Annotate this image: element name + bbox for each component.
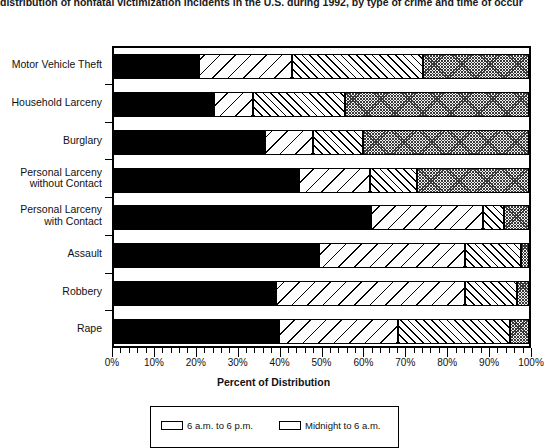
x-axis-major-tick	[531, 348, 532, 357]
x-axis-minor-tick	[229, 348, 230, 353]
x-axis-tick-label: 30%	[218, 357, 258, 368]
x-axis-tick-label: 70%	[385, 357, 425, 368]
y-axis-labels: Motor Vehicle TheftHousehold LarcenyBurg…	[0, 46, 108, 348]
y-axis-label: Robbery	[0, 286, 108, 298]
bar-segment-dense-forwardslash-hatch	[253, 92, 344, 117]
x-axis-minor-tick	[179, 348, 180, 353]
y-axis-label: Motor Vehicle Theft	[0, 59, 108, 71]
chart-legend: 6 a.m. to 6 p.m. Midnight to 6 a.m.	[150, 406, 399, 448]
x-axis-minor-tick	[296, 348, 297, 353]
x-axis-minor-tick	[414, 348, 415, 353]
legend-row: 6 a.m. to 6 p.m. Midnight to 6 a.m.	[151, 419, 398, 432]
x-axis-major-tick	[154, 348, 155, 357]
bar-segment-solid-black	[114, 243, 319, 268]
x-axis-minor-tick	[347, 348, 348, 353]
x-axis-minor-tick	[305, 348, 306, 353]
bar-segment-dense-forwardslash-hatch	[398, 319, 510, 344]
legend-label: Midnight to 6 a.m.	[305, 420, 381, 431]
x-axis-major-tick	[196, 348, 197, 357]
bar-segment-sparse-backslash-hatch	[319, 243, 464, 268]
x-axis-minor-tick	[514, 348, 515, 353]
x-axis-minor-tick	[313, 348, 314, 353]
y-axis-tick	[105, 235, 114, 236]
y-axis-label: Assault	[0, 248, 108, 260]
y-axis-label: Burglary	[0, 135, 108, 147]
x-axis-major-tick	[405, 348, 406, 357]
x-axis-minor-tick	[439, 348, 440, 353]
x-axis-minor-tick	[162, 348, 163, 353]
x-axis-minor-tick	[187, 348, 188, 353]
bar-segment-gray-crosshatch	[417, 168, 529, 193]
x-axis-minor-tick	[246, 348, 247, 353]
x-axis-minor-tick	[372, 348, 373, 353]
legend-item-daytime[interactable]: 6 a.m. to 6 p.m.	[161, 419, 253, 432]
x-axis-minor-tick	[397, 348, 398, 353]
bar-segment-solid-black	[114, 54, 199, 79]
x-axis-minor-tick	[271, 348, 272, 353]
x-axis-tick-label: 40%	[260, 357, 300, 368]
bar-burglary	[114, 130, 529, 155]
y-axis-label: Personal Larcenywith Contact	[0, 204, 108, 227]
bar-segment-solid-black	[114, 281, 276, 306]
bar-segment-dense-forwardslash-hatch	[465, 281, 517, 306]
x-axis-minor-tick	[481, 348, 482, 353]
x-axis-tick-label: 20%	[176, 357, 216, 368]
legend-swatch-gray-crosshatch-icon	[279, 421, 301, 430]
x-axis-tick-label: 60%	[343, 357, 383, 368]
bar-segment-solid-black	[114, 319, 279, 344]
bar-segment-sparse-backslash-hatch	[299, 168, 370, 193]
x-axis-minor-tick	[146, 348, 147, 353]
bar-segment-gray-crosshatch	[423, 54, 529, 79]
x-axis-minor-tick	[330, 348, 331, 353]
bar-segment-solid-black	[114, 92, 214, 117]
x-axis-tick-label: 80%	[427, 357, 467, 368]
bar-segment-gray-crosshatch	[517, 281, 529, 306]
bar-segment-gray-crosshatch	[504, 205, 529, 230]
x-axis-tick-labels: 0%10%20%30%40%50%60%70%80%90%100%	[0, 357, 547, 371]
x-axis-major-tick	[112, 348, 113, 357]
bar-household-larceny	[114, 92, 529, 117]
x-axis-minor-tick	[422, 348, 423, 353]
y-axis-label: Rape	[0, 323, 108, 335]
x-axis-major-tick	[363, 348, 364, 357]
x-axis-minor-tick	[221, 348, 222, 353]
x-axis-major-tick	[322, 348, 323, 357]
y-axis-label: Household Larceny	[0, 97, 108, 109]
bar-motor-vehicle-theft	[114, 54, 529, 79]
x-axis-minor-tick	[464, 348, 465, 353]
legend-item-midnight[interactable]: Midnight to 6 a.m.	[279, 419, 381, 432]
x-axis-minor-tick	[254, 348, 255, 353]
bar-robbery	[114, 281, 529, 306]
bar-segment-sparse-backslash-hatch	[265, 130, 313, 155]
plot-area	[112, 46, 531, 348]
bar-segment-sparse-backslash-hatch	[214, 92, 254, 117]
bar-segment-gray-crosshatch	[521, 243, 529, 268]
bar-personal-larceny-with-contact	[114, 205, 529, 230]
bar-segment-sparse-backslash-hatch	[371, 205, 483, 230]
x-axis-minor-tick	[338, 348, 339, 353]
x-axis-minor-tick	[497, 348, 498, 353]
bar-segment-sparse-backslash-hatch	[279, 319, 398, 344]
x-axis-minor-tick	[204, 348, 205, 353]
bar-segment-solid-black	[114, 130, 265, 155]
bar-segment-dense-forwardslash-hatch	[292, 54, 423, 79]
bar-segment-dense-forwardslash-hatch	[483, 205, 504, 230]
x-axis-tick-label: 90%	[469, 357, 509, 368]
y-axis-tick	[105, 122, 114, 123]
x-axis-minor-tick	[213, 348, 214, 353]
bar-segment-solid-black	[114, 205, 371, 230]
y-axis-tick	[105, 273, 114, 274]
chart-title: distribution of nonfatal victimization i…	[0, 0, 547, 10]
bar-segment-gray-crosshatch	[345, 92, 529, 117]
x-axis-minor-tick	[355, 348, 356, 353]
x-axis-minor-tick	[288, 348, 289, 353]
x-axis-minor-tick	[472, 348, 473, 353]
x-axis-minor-tick	[456, 348, 457, 353]
y-axis-tick	[105, 159, 114, 160]
x-axis-minor-tick	[171, 348, 172, 353]
legend-label: 6 a.m. to 6 p.m.	[187, 420, 253, 431]
y-axis-tick	[105, 197, 114, 198]
x-axis-major-tick	[489, 348, 490, 357]
y-axis-tick	[105, 310, 114, 311]
